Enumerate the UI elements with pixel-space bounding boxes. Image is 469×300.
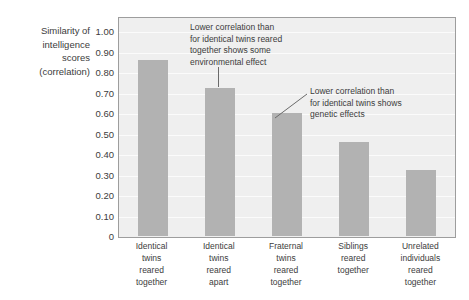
annotation-leader-line-1	[218, 67, 219, 87]
x-axis-label-3: Fraternaltwinsrearedtogether	[253, 240, 319, 288]
x-label-line: together	[253, 276, 319, 288]
y-tick-label: 0.30	[76, 171, 114, 181]
x-label-line: twins	[253, 252, 319, 264]
x-label-line: Identical	[186, 240, 252, 252]
y-tick-label: 0.10	[76, 212, 114, 222]
x-label-line: individuals	[387, 252, 453, 264]
y-axis-tick-labels: 1.000.900.800.700.600.500.400.300.200.10…	[76, 17, 114, 238]
x-label-line: together	[119, 276, 185, 288]
annotation-genetic-effects: Lower correlation than for identical twi…	[310, 86, 445, 121]
x-axis-label-1: Identicaltwinsrearedtogether	[119, 240, 185, 288]
x-label-line: together	[320, 264, 386, 276]
y-tick-label: 0.20	[76, 191, 114, 201]
bar-1	[138, 60, 168, 236]
y-tick-label: 0.80	[76, 68, 114, 78]
bar-3	[272, 113, 302, 236]
y-tick-label: 0.60	[76, 109, 114, 119]
x-axis-label-4: Siblingsrearedtogether	[320, 240, 386, 276]
gridline-0.80	[119, 73, 455, 74]
x-label-line: Unrelated	[387, 240, 453, 252]
y-tick-label: 0.90	[76, 48, 114, 58]
x-label-line: reared	[320, 252, 386, 264]
x-label-line: reared	[119, 264, 185, 276]
x-axis-label-2: Identicaltwinsrearedapart	[186, 240, 252, 288]
x-label-line: Identical	[119, 240, 185, 252]
y-tick-label: 0.40	[76, 150, 114, 160]
x-label-line: Fraternal	[253, 240, 319, 252]
x-label-line: together	[387, 276, 453, 288]
x-label-line: twins	[119, 252, 185, 264]
y-tick-label: 1.00	[76, 27, 114, 37]
bar-5	[406, 170, 436, 236]
x-label-line: twins	[186, 252, 252, 264]
y-tick-label: 0.70	[76, 89, 114, 99]
x-axis-label-5: Unrelatedindividualsrearedtogether	[387, 240, 453, 288]
annotation-environmental-effect: Lower correlation than for identical twi…	[190, 22, 320, 68]
y-tick-label: 0	[76, 232, 114, 242]
x-label-line: reared	[387, 264, 453, 276]
x-label-line: Siblings	[320, 240, 386, 252]
x-label-line: reared	[253, 264, 319, 276]
bar-2	[205, 88, 235, 236]
annotation-leader-line-2	[274, 93, 308, 119]
x-label-line: reared	[186, 264, 252, 276]
y-tick-label: 0.50	[76, 130, 114, 140]
x-axis-category-labels: IdenticaltwinsrearedtogetherIdenticaltwi…	[118, 240, 456, 298]
x-label-line: apart	[186, 276, 252, 288]
bar-4	[339, 142, 369, 236]
